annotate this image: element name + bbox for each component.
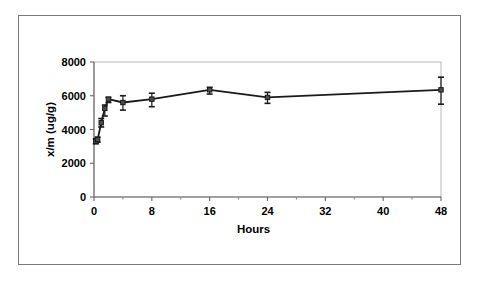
tick-labels-group: 02000400060008000081624324048 <box>62 56 448 217</box>
y-tick-label: 6000 <box>62 90 86 102</box>
data-point-marker <box>121 100 125 104</box>
data-markers-group <box>94 88 444 144</box>
x-axis-title: Hours <box>237 223 270 235</box>
data-point-marker <box>106 97 110 101</box>
error-bars-group <box>93 77 444 144</box>
data-point-marker <box>207 88 211 92</box>
x-tick-label: 40 <box>377 205 389 217</box>
y-tick-label: 4000 <box>62 124 86 136</box>
figure-root: 02000400060008000081624324048 Hoursx/m (… <box>0 0 479 282</box>
data-point-marker <box>99 121 103 125</box>
data-point-marker <box>150 97 154 101</box>
line-chart: 02000400060008000081624324048 Hoursx/m (… <box>0 0 479 282</box>
data-point-marker <box>103 106 107 110</box>
y-tick-label: 0 <box>80 191 86 203</box>
data-point-marker <box>265 95 269 99</box>
tick-marks-group <box>90 62 441 201</box>
x-tick-label: 48 <box>435 205 447 217</box>
x-tick-label: 0 <box>91 205 97 217</box>
x-tick-label: 24 <box>261 205 274 217</box>
data-point-marker <box>439 88 443 92</box>
plot-area-frame <box>94 62 441 197</box>
x-tick-label: 16 <box>204 205 216 217</box>
y-tick-label: 2000 <box>62 157 86 169</box>
data-point-marker <box>95 137 99 141</box>
y-axis-title: x/m (ug/g) <box>44 102 56 157</box>
axes-group <box>94 62 441 197</box>
x-tick-label: 8 <box>149 205 155 217</box>
y-tick-label: 8000 <box>62 56 86 68</box>
x-tick-label: 32 <box>319 205 331 217</box>
